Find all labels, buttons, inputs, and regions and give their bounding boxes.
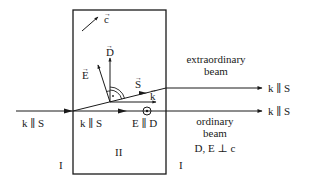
svg-text:→: → bbox=[106, 42, 113, 50]
region-i-left-label: I bbox=[59, 159, 63, 171]
angle-arc-e bbox=[107, 91, 110, 92]
right-angle-arc-inner bbox=[110, 90, 122, 99]
optic-axis-arrow bbox=[82, 17, 98, 31]
inside-k-parallel-s-label: k ∥ S bbox=[80, 117, 102, 129]
c-vector-label: c → bbox=[104, 10, 111, 25]
ordinary-beam-label: ordinary bbox=[196, 115, 234, 127]
ordinary-beam-label-2: beam bbox=[203, 127, 227, 139]
e-vector-arrow bbox=[98, 65, 110, 102]
d-vector-label: D → bbox=[106, 42, 114, 58]
e-parallel-d-label: E ∥ D bbox=[132, 117, 157, 129]
k-vector-label: k → bbox=[150, 86, 157, 102]
ordinary-condition-label: D, E ⊥ c bbox=[195, 142, 236, 154]
s-vector-label: S → bbox=[135, 74, 142, 90]
birefringence-diagram: c → D → E → S → k → bbox=[0, 0, 318, 185]
region-i-right-label: I bbox=[179, 159, 183, 171]
right-angle-dot-icon bbox=[112, 95, 114, 97]
extraordinary-exit-label: k ∥ S bbox=[268, 82, 290, 94]
e-vector-label: E → bbox=[82, 65, 89, 81]
extraordinary-beam-label: extraordinary bbox=[186, 53, 246, 65]
svg-text:→: → bbox=[135, 74, 142, 82]
ordinary-arrowhead-icon bbox=[118, 109, 127, 114]
incident-k-parallel-s-label: k ∥ S bbox=[22, 117, 44, 129]
vector-arrow-icon: → bbox=[104, 10, 111, 18]
incident-arrowhead-icon bbox=[64, 109, 73, 114]
extraordinary-beam-label-2: beam bbox=[204, 65, 228, 77]
field-vectors bbox=[98, 58, 156, 102]
ordinary-exit-label: k ∥ S bbox=[268, 105, 290, 117]
region-ii-label: II bbox=[115, 146, 123, 158]
svg-text:→: → bbox=[82, 65, 89, 73]
s-arrowhead-icon bbox=[139, 91, 147, 95]
svg-text:→: → bbox=[150, 86, 157, 94]
